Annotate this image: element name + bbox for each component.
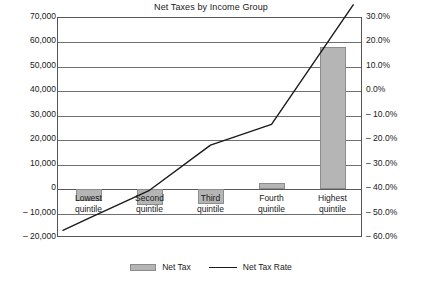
legend-item-net-tax-rate: Net Tax Rate: [209, 262, 292, 272]
right-axis-tick: – 30.0%: [366, 159, 422, 168]
right-axis-tick: – 60.0%: [366, 232, 422, 241]
bar-swatch-icon: [130, 264, 156, 271]
left-axis-tick: 50,000: [2, 61, 56, 70]
right-axis-tick: 20.0%: [366, 36, 422, 45]
right-axis-tick: – 20.0%: [366, 134, 422, 143]
left-axis-tick: 0: [2, 183, 56, 192]
chart-title: Net Taxes by Income Group: [0, 2, 422, 12]
legend-label-net-tax-rate: Net Tax Rate: [243, 262, 292, 272]
chart-legend: Net Tax Net Tax Rate: [0, 262, 422, 272]
chart-container: Net Taxes by Income Group 70,00060,00050…: [0, 0, 422, 293]
right-axis-tick: – 40.0%: [366, 183, 422, 192]
left-axis-tick: – 10,000: [2, 208, 56, 217]
left-axis-tick: 40,000: [2, 85, 56, 94]
right-axis-tick: 30.0%: [366, 12, 422, 21]
plot-area: LowestquintileSecondquintileThirdquintil…: [57, 17, 362, 237]
left-axis-tick: 30,000: [2, 110, 56, 119]
right-axis-tick: 0.0%: [366, 85, 422, 94]
right-axis-tick: – 10.0%: [366, 110, 422, 119]
line-series-net-tax-rate: [58, 18, 363, 238]
legend-label-net-tax: Net Tax: [162, 262, 191, 272]
right-axis-tick: – 50.0%: [366, 208, 422, 217]
left-axis-tick: – 20,000: [2, 232, 56, 241]
left-axis-tick: 10,000: [2, 159, 56, 168]
right-axis-tick: 10.0%: [366, 61, 422, 70]
line-swatch-icon: [209, 267, 237, 268]
legend-item-net-tax: Net Tax: [130, 262, 191, 272]
left-axis-tick: 20,000: [2, 134, 56, 143]
left-axis-tick: 70,000: [2, 12, 56, 21]
left-axis-tick: 60,000: [2, 36, 56, 45]
